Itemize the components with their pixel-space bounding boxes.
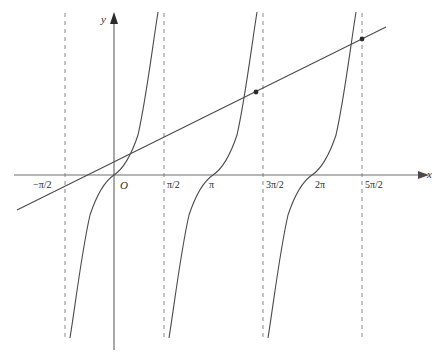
origin-label: O bbox=[120, 180, 128, 191]
xtick-label-three-half-pi: 3π/2 bbox=[266, 180, 284, 190]
straight-line-through-origin bbox=[17, 27, 386, 210]
y-axis-label: y bbox=[101, 14, 106, 25]
y-axis-arrowhead bbox=[110, 12, 118, 24]
y-axis bbox=[110, 12, 118, 350]
intersection-marker-1 bbox=[254, 90, 259, 95]
chart-canvas bbox=[0, 0, 440, 354]
tangent-function-chart: −π/2 O π/2 π 3π/2 2π 5π/2 y x bbox=[0, 0, 440, 354]
xtick-label-pi: π bbox=[209, 180, 214, 190]
xtick-label-five-half-pi: 5π/2 bbox=[365, 180, 383, 190]
x-axis-label: x bbox=[427, 169, 432, 180]
asymptote-group bbox=[65, 13, 362, 341]
xtick-label-neg-half-pi: −π/2 bbox=[33, 180, 51, 190]
xtick-label-two-pi: 2π bbox=[315, 180, 325, 190]
x-axis bbox=[14, 171, 429, 179]
intersection-marker-2 bbox=[360, 37, 365, 42]
xtick-label-half-pi: π/2 bbox=[167, 180, 180, 190]
